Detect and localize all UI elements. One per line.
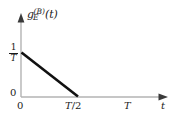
function-superscript: (B) <box>34 7 45 16</box>
ramp-segment <box>22 53 79 97</box>
function-argument: (t) <box>45 8 58 21</box>
x-tick-t-half-t: T <box>65 100 72 111</box>
x-tick-label-t: T <box>124 101 131 111</box>
x-tick-label-zero: 0 <box>17 101 23 111</box>
y-tick-label-zero: 0 <box>10 88 16 98</box>
x-tick-t-half-two: 2 <box>75 100 81 111</box>
fraction-numerator: 1 <box>7 43 20 52</box>
y-tick-label-one-over-t: 1 T <box>7 43 20 64</box>
x-axis-variable-label: t <box>161 101 165 111</box>
fraction-denominator: T <box>7 54 20 63</box>
x-tick-label-t-half: T/2 <box>65 101 81 111</box>
function-label: gE(B)(t) <box>27 8 58 22</box>
y-axis-arrow-icon <box>18 13 25 23</box>
plot-figure: gE(B)(t) 1 T 0 0 T/2 T t <box>0 0 174 124</box>
